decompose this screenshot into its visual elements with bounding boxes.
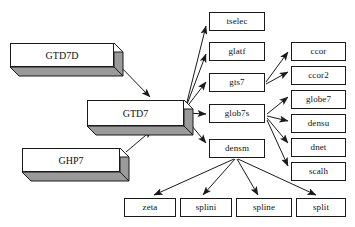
node-scalh[interactable]: scalh [291, 162, 346, 181]
node-ccor2[interactable]: ccor2 [291, 66, 346, 85]
node-globe7[interactable]: globe7 [291, 90, 346, 109]
edge-densm-to-zeta [154, 159, 234, 195]
node-glatf[interactable]: glatf [209, 42, 265, 61]
edge-gts7-to-ccor2 [266, 72, 288, 84]
block-label-gtd7d: GTD7D [10, 43, 114, 67]
node-tselec[interactable]: tselec [209, 12, 265, 31]
node-gts7[interactable]: gts7 [209, 73, 265, 92]
block-node-gtd7d[interactable]: GTD7D [10, 43, 123, 76]
node-zeta[interactable]: zeta [124, 198, 176, 217]
node-glob7s[interactable]: glob7s [209, 104, 265, 123]
edge-glob7s-to-globe7 [267, 97, 288, 114]
edge-densm-to-splini [203, 159, 235, 195]
edge-glob7s-to-densu [267, 116, 288, 121]
node-densu[interactable]: densu [291, 114, 346, 133]
node-densm[interactable]: densm [209, 139, 265, 158]
node-spline[interactable]: spline [236, 198, 292, 217]
block-label-gtd7: GTD7 [87, 100, 184, 126]
node-dnet[interactable]: dnet [291, 138, 346, 157]
diagram-canvas: GTD7DGTD7GHP7tselecglatfgts7glob7sdensmc… [0, 0, 355, 227]
edge-glob7s-to-scalh [267, 120, 288, 166]
block-label-ghp7: GHP7 [22, 148, 120, 172]
edge-gts7-to-ccor [266, 52, 288, 82]
node-splini[interactable]: splini [180, 198, 232, 217]
block-node-gtd7[interactable]: GTD7 [87, 100, 193, 135]
edge-densm-to-spline [237, 159, 258, 195]
edge-gtd7-to-tselec [186, 26, 206, 106]
edge-glob7s-to-dnet [267, 118, 288, 143]
block-node-ghp7[interactable]: GHP7 [22, 148, 129, 181]
node-split[interactable]: split [296, 198, 346, 217]
node-ccor[interactable]: ccor [291, 42, 346, 61]
